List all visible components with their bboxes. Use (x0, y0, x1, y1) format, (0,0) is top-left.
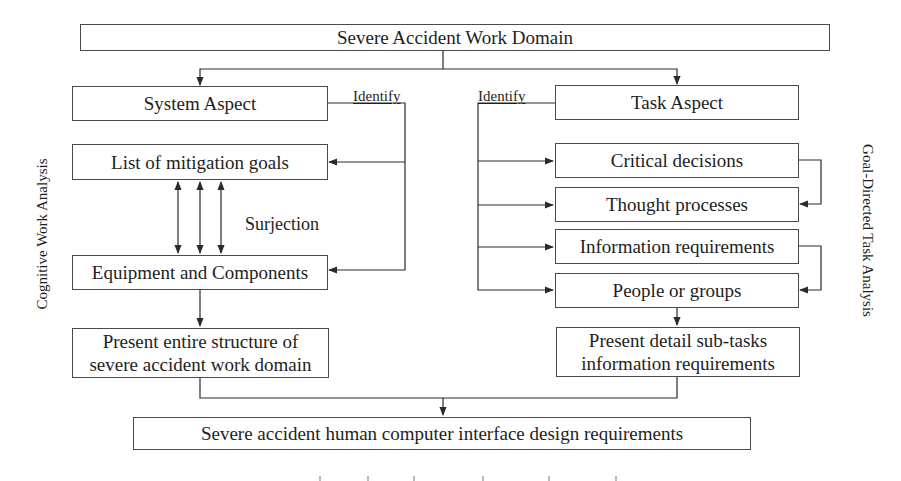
surjection-label: Surjection (245, 214, 319, 235)
present-subtasks-line2: information requirements (581, 352, 775, 375)
left-identify-line (327, 103, 405, 270)
work-domain-label: Severe Accident Work Domain (337, 26, 573, 49)
hci-design-requirements-label: Severe accident human computer interface… (201, 422, 683, 445)
critical-decisions-box: Critical decisions (555, 143, 799, 178)
split-line (200, 50, 443, 85)
task-aspect-label: Task Aspect (631, 91, 723, 114)
right-identify-label: Identify (478, 88, 525, 105)
thought-processes-label: Thought processes (606, 193, 748, 216)
information-requirements-box: Information requirements (555, 229, 799, 264)
task-aspect-box: Task Aspect (555, 85, 799, 120)
work-domain-box: Severe Accident Work Domain (80, 24, 830, 51)
information-requirements-label: Information requirements (580, 235, 775, 258)
present-structure-line1: Present entire structure of (103, 330, 299, 353)
present-structure-line2: severe accident work domain (89, 353, 311, 376)
people-groups-label: People or groups (613, 279, 742, 302)
goal-directed-task-analysis-label: Goal-Directed Task Analysis (859, 141, 876, 321)
system-aspect-box: System Aspect (72, 86, 328, 121)
right-identify-line (478, 103, 555, 290)
cognitive-work-analysis-label: Cognitive Work Analysis (34, 160, 51, 310)
mitigation-goals-label: List of mitigation goals (111, 151, 289, 174)
cropped-caption-fragment (315, 474, 635, 481)
present-subtasks-line1: Present detail sub-tasks (589, 329, 767, 352)
merge-line (200, 376, 677, 398)
hci-design-requirements-box: Severe accident human computer interface… (133, 417, 751, 450)
people-groups-box: People or groups (555, 273, 799, 308)
present-structure-box: Present entire structure of severe accid… (72, 328, 329, 378)
mitigation-goals-box: List of mitigation goals (72, 144, 328, 180)
equipment-components-label: Equipment and Components (92, 261, 308, 284)
critical-decisions-label: Critical decisions (611, 149, 743, 172)
left-identify-label: Identify (353, 88, 400, 105)
equipment-components-box: Equipment and Components (72, 255, 328, 290)
present-subtasks-box: Present detail sub-tasks information req… (556, 327, 800, 377)
thought-processes-box: Thought processes (555, 187, 799, 222)
system-aspect-label: System Aspect (144, 92, 256, 115)
